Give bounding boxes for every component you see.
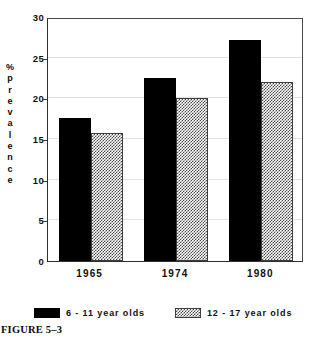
bar: [59, 118, 91, 261]
plot-area: [47, 18, 303, 262]
y-axis-title-char: e: [2, 96, 18, 107]
figure-container: %prevalence 051015202530 196519741980 6 …: [0, 0, 312, 340]
legend-swatch: [34, 308, 60, 318]
bar: [229, 40, 261, 261]
legend-label: 6 - 11 year olds: [66, 308, 145, 318]
y-axis-title-char: c: [2, 164, 18, 175]
bar: [261, 82, 293, 261]
y-tick-label: 0: [22, 256, 44, 267]
y-tick-label: 15: [22, 134, 44, 145]
bar: [144, 78, 176, 261]
legend-label: 12 - 17 year olds: [207, 308, 292, 318]
y-axis-title-char: e: [2, 141, 18, 152]
chart-legend: 6 - 11 year olds12 - 17 year olds: [34, 308, 292, 318]
y-axis-title-char: a: [2, 118, 18, 129]
y-axis-title-char: l: [2, 130, 18, 141]
y-tick-label: 20: [22, 93, 44, 104]
legend-entry: 12 - 17 year olds: [175, 308, 292, 318]
figure-caption: FIGURE 5–3: [1, 324, 62, 335]
legend-swatch: [175, 308, 201, 318]
legend-entry: 6 - 11 year olds: [34, 308, 145, 318]
y-axis-title-char: v: [2, 107, 18, 118]
y-axis-title-char: p: [2, 73, 18, 84]
x-tick-label: 1974: [145, 268, 205, 279]
y-axis-title-char: n: [2, 152, 18, 163]
y-tick-label: 5: [22, 215, 44, 226]
x-tick-label: 1980: [230, 268, 290, 279]
y-axis-title-char: r: [2, 85, 18, 96]
x-tick-label: 1965: [60, 268, 120, 279]
bar: [176, 98, 208, 261]
gridline: [48, 57, 302, 58]
y-axis-title-char: %: [2, 62, 18, 73]
bar: [91, 133, 123, 262]
y-axis-title-char: e: [2, 175, 18, 186]
y-axis-title: %prevalence: [2, 62, 18, 186]
y-tick-label: 30: [22, 12, 44, 23]
y-tick-label: 10: [22, 175, 44, 186]
y-tick-label: 25: [22, 53, 44, 64]
